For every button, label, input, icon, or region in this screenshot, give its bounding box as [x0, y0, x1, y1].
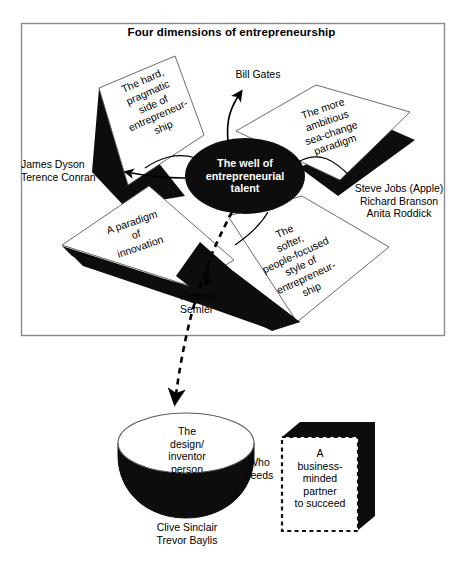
connector-label-who-needs: Who needs: [236, 456, 282, 481]
arrow-bill-gates: [228, 92, 241, 142]
diagram-vector-layer: [0, 0, 463, 570]
diagram-canvas: Four dimensions of entrepreneurship The …: [0, 0, 463, 570]
pointer-label-james-dyson: James Dyson Terence Conran: [21, 158, 121, 183]
cylinder-label: The design/ inventor person: [146, 425, 228, 475]
pointer-label-ricardo-semler: Ricardo Semler: [180, 290, 254, 315]
pointer-label-bill-gates: Bill Gates: [213, 68, 303, 81]
center-ellipse-label: The well of entrepreneurial talent: [185, 157, 305, 195]
page-title: Four dimensions of entrepreneurship: [0, 26, 463, 38]
cylinder-examples-label: Clive Sinclair Trevor Baylis: [126, 521, 248, 546]
cube-label: A business- minded partner to succeed: [283, 447, 357, 510]
pointer-label-steve-jobs: Steve Jobs (Apple) Richard Branson Anita…: [340, 182, 458, 220]
